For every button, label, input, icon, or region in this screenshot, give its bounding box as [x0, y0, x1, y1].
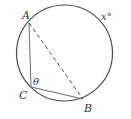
segment-ac: [29, 23, 31, 87]
label-point-a: A: [21, 9, 30, 22]
circle-diagram: A x° θ C B: [0, 0, 131, 119]
label-arc-x-degrees: x°: [101, 11, 112, 22]
label-angle-theta: θ: [33, 76, 39, 87]
label-point-c: C: [19, 89, 28, 102]
segment-ab-dashed: [29, 23, 83, 99]
label-point-b: B: [83, 102, 92, 115]
